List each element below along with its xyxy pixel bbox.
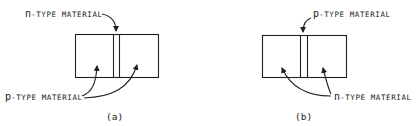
bottom-label-a: p-TYPE MATERIAL (5, 91, 83, 102)
caption-a: (a) (106, 111, 123, 122)
figure-b: p-TYPE MATERIAL n-TYPE MATERIAL (b) (263, 8, 412, 122)
top-label-a: n-TYPE MATERIAL (25, 8, 103, 19)
transistor-junction-diagram: n-TYPE MATERIAL p-TYPE MATERIAL (a) p-TY… (0, 0, 417, 126)
semiconductor-block-b (263, 36, 347, 78)
arrow-top-a (102, 14, 116, 31)
arrow-bottom-left-a (82, 66, 97, 96)
arrow-top-b (303, 18, 311, 32)
figure-a: n-TYPE MATERIAL p-TYPE MATERIAL (a) (5, 8, 159, 122)
bottom-label-b: n-TYPE MATERIAL (334, 91, 412, 102)
top-label-b: p-TYPE MATERIAL (313, 8, 391, 19)
caption-b: (b) (295, 111, 312, 122)
arrow-bottom-right-a (84, 65, 137, 98)
arrow-bottom-right-b (323, 68, 331, 94)
semiconductor-block-a (76, 35, 159, 78)
